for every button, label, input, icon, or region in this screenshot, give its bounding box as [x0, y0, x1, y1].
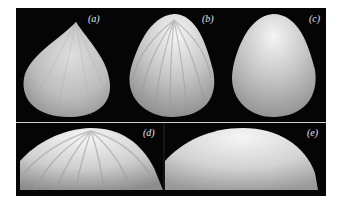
- panel-b: (b): [119, 8, 223, 121]
- panel-e: (e): [165, 123, 326, 190]
- panel-a: (a): [16, 8, 119, 121]
- panel-label: (d): [143, 128, 155, 138]
- panel-c: (c): [223, 8, 326, 121]
- rounded-shape-smooth: [223, 8, 326, 121]
- figure-rendering-comparison: (a) (b): [16, 8, 326, 196]
- panel-label: (b): [202, 14, 214, 24]
- rounded-shape-streaked: [119, 8, 223, 121]
- closeup-smooth: [165, 123, 326, 190]
- panel-d: (d): [16, 123, 163, 190]
- panel-label: (c): [309, 14, 320, 24]
- cone-shape-sharp: [16, 8, 119, 121]
- panel-label: (a): [88, 14, 100, 24]
- panel-label: (e): [307, 128, 318, 138]
- closeup-streaked: [16, 123, 163, 190]
